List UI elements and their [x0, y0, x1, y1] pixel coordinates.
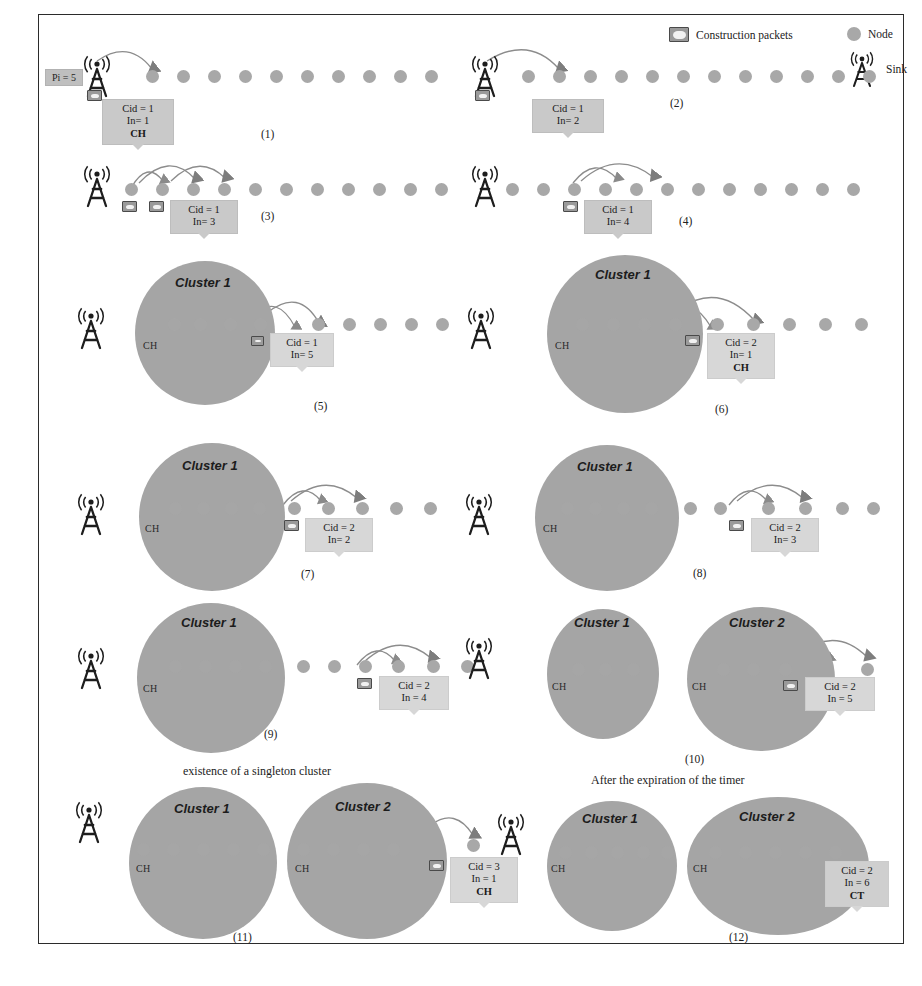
node: [816, 183, 829, 196]
node: [506, 183, 519, 196]
info-box-panel-8: Cid = 2 In= 3: [751, 518, 819, 552]
node: [584, 70, 597, 83]
node: [847, 183, 860, 196]
node: [819, 318, 832, 331]
info-box-panel-1: Cid = 1 In= 1 CH: [102, 99, 174, 145]
node: [374, 318, 387, 331]
node: [677, 70, 690, 83]
sink-icon-panel-9: [69, 645, 113, 691]
node: [194, 318, 207, 331]
node: [863, 70, 876, 83]
node: [390, 502, 403, 515]
info-box-panel-11: Cid = 3 In = 1 CH: [450, 857, 518, 903]
node: [717, 663, 730, 676]
info-cid: Cid = 2: [813, 681, 867, 693]
node: [709, 846, 722, 859]
node: [522, 70, 535, 83]
panel-number: (7): [301, 568, 314, 580]
packet-icon: [729, 520, 744, 531]
sink-icon-panel-11: [67, 799, 111, 845]
node: [801, 70, 814, 83]
node: [611, 846, 624, 859]
node: [227, 843, 240, 856]
node: [357, 843, 370, 856]
node: [270, 70, 283, 83]
node: [467, 839, 480, 852]
node: [615, 70, 628, 83]
node: [537, 183, 550, 196]
node: [711, 318, 724, 331]
packet-icon: [475, 90, 490, 101]
panel-number: (5): [314, 400, 327, 412]
info-role: CH: [110, 128, 166, 140]
info-in: In = 1: [458, 873, 510, 885]
node: [553, 70, 566, 83]
cluster-title: Cluster 1: [182, 458, 238, 473]
cluster-title: Cluster 2: [739, 809, 795, 824]
node: [373, 183, 386, 196]
node: [167, 843, 180, 856]
node: [169, 660, 182, 673]
node: [168, 318, 181, 331]
info-cid: Cid = 1: [278, 337, 326, 349]
node: [332, 70, 345, 83]
node: [861, 663, 874, 676]
info-cid: Cid = 2: [313, 522, 365, 534]
ch-label: CH: [555, 340, 570, 351]
node: [585, 846, 598, 859]
node: [769, 846, 782, 859]
node: [359, 660, 372, 673]
packet-icon: [87, 90, 102, 101]
info-in: In= 2: [540, 115, 596, 127]
legend-item-packet: Construction packets: [669, 27, 793, 42]
node: [435, 183, 448, 196]
packet-icon: [429, 860, 444, 871]
panel-caption: After the expiration of the timer: [591, 773, 745, 788]
info-in: In= 3: [759, 534, 811, 546]
node: [646, 70, 659, 83]
ch-label: CH: [295, 863, 310, 874]
node: [280, 183, 293, 196]
info-box-panel-3: Cid = 1 In= 3: [170, 200, 238, 234]
node: [754, 183, 767, 196]
node: [229, 660, 242, 673]
node: [572, 663, 585, 676]
node: [714, 502, 727, 515]
sink-icon-panel-3: [75, 163, 119, 209]
node: [257, 843, 270, 856]
cluster-title: Cluster 1: [574, 615, 630, 630]
panel-number: (1): [261, 128, 274, 140]
panel-number: (8): [693, 567, 706, 579]
info-in: In= 5: [278, 349, 326, 361]
packet-icon: [122, 201, 137, 212]
node: [254, 318, 267, 331]
panel-number: (6): [715, 403, 728, 415]
node: [747, 663, 760, 676]
node: [218, 183, 231, 196]
node: [661, 846, 674, 859]
sink-icon-panel-12: [489, 811, 533, 857]
info-in: In= 1: [715, 349, 767, 361]
node: [561, 502, 574, 515]
node: [799, 846, 812, 859]
packet-icon: [149, 201, 164, 212]
node: [208, 70, 221, 83]
packet-icon: [685, 335, 700, 346]
node: [638, 318, 651, 331]
node: [799, 502, 812, 515]
sink-icon-panel-4: [463, 163, 507, 209]
ch-label: CH: [145, 523, 160, 534]
cluster-title: Cluster 2: [335, 799, 391, 814]
packet-icon: [251, 336, 264, 346]
node: [169, 502, 182, 515]
node: [607, 318, 620, 331]
node: [836, 502, 849, 515]
node: [297, 660, 310, 673]
cluster-title: Cluster 1: [181, 615, 237, 630]
node: [829, 846, 842, 859]
antenna-tower-icon: [845, 49, 879, 89]
node: [301, 70, 314, 83]
info-box-panel-5: Cid = 1 In= 5: [270, 333, 334, 367]
panel-number: (3): [261, 210, 274, 222]
info-cid: Cid = 2: [715, 337, 767, 349]
